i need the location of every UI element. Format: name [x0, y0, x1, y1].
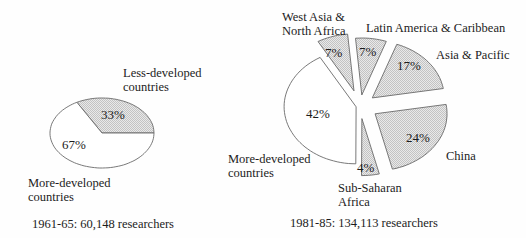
slice-label-china: China — [446, 149, 476, 163]
chart-caption-1981-85: 1981-85: 134,113 researchers — [290, 217, 438, 230]
pct-label-more-developed-1981: 42% — [306, 107, 330, 120]
pct-label-more-developed-1961: 67% — [62, 138, 86, 151]
pct-label-china: 24% — [406, 131, 430, 144]
chart-caption-1961-65: 1961-65: 60,148 researchers — [32, 218, 174, 231]
slice-label-more-developed-countries-1961: More-developed countries — [28, 176, 111, 204]
slice-label-west-asia-north-africa: West Asia & North Africa — [282, 10, 346, 38]
slice-label-more-developed-countries-1981: More-developed countries — [228, 152, 311, 180]
pct-label-less-developed: 33% — [101, 108, 125, 121]
pct-label-west-asia: 7% — [325, 46, 342, 59]
slice-label-latin-america-caribbean: Latin America & Caribbean — [366, 21, 505, 35]
pct-label-sub-saharan: 4% — [357, 161, 374, 174]
slice-label-sub-saharan-africa: Sub-Saharan Africa — [338, 181, 402, 209]
pct-label-latin-america: 7% — [359, 45, 376, 58]
slice-label-asia-pacific: Asia & Pacific — [436, 48, 510, 62]
pct-label-asia-pacific: 17% — [397, 59, 421, 72]
slice-label-less-developed-countries: Less-developed countries — [123, 66, 201, 94]
